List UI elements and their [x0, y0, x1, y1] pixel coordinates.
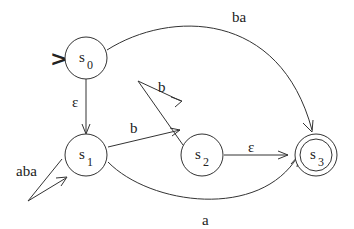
transition-label-a: a: [202, 212, 209, 228]
svg-text:2: 2: [203, 155, 209, 169]
svg-text:s: s: [310, 146, 316, 162]
state-s0: s 0: [65, 37, 107, 79]
transition-label-epsilon-2: ε: [248, 139, 254, 155]
svg-text:1: 1: [87, 155, 93, 169]
svg-text:0: 0: [87, 58, 93, 72]
state-s1: s 1: [65, 134, 107, 176]
transition-label-epsilon-1: ε: [72, 94, 78, 110]
automaton-diagram: > ba ε aba b b ε a: [0, 0, 354, 229]
state-s3-accepting: s 3: [295, 134, 337, 176]
transition-label-b-1: b: [130, 120, 138, 136]
transition-s0-s1: ε: [72, 79, 90, 134]
transition-label-aba: aba: [16, 163, 37, 179]
transition-s0-s3: ba: [107, 9, 313, 132]
transition-s2-s3: ε: [224, 139, 288, 159]
svg-text:s: s: [79, 49, 85, 65]
svg-text:3: 3: [318, 155, 324, 169]
transition-s1-loop: aba: [16, 159, 67, 201]
transition-s1-s2: b: [108, 120, 180, 147]
state-s2: s 2: [181, 134, 223, 176]
svg-text:s: s: [79, 146, 85, 162]
transition-label-b-2: b: [158, 79, 166, 95]
transition-label-ba: ba: [232, 9, 247, 25]
svg-text:s: s: [195, 146, 201, 162]
